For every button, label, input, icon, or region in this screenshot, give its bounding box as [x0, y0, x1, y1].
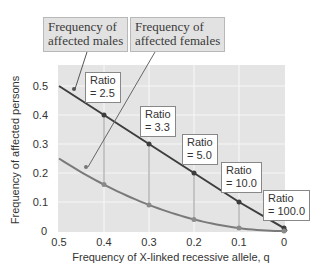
ratio-value: = 5.0 — [187, 149, 213, 162]
ratio-title: Ratio — [226, 164, 257, 177]
ratio-label: Ratio = 100.0 — [263, 190, 310, 221]
svg-text:0.3: 0.3 — [141, 236, 156, 248]
ratio-title: Ratio — [145, 108, 171, 121]
ratio-label: Ratio = 3.3 — [140, 106, 176, 137]
svg-text:0.5: 0.5 — [51, 236, 66, 248]
svg-text:0.5: 0.5 — [33, 80, 48, 92]
ratio-value: = 100.0 — [268, 205, 305, 218]
ratio-label: Ratio = 2.5 — [85, 72, 121, 103]
ratio-label: Ratio = 5.0 — [182, 134, 218, 165]
ratio-title: Ratio — [187, 136, 213, 149]
callout-affected-males: Frequency of affected males — [43, 17, 128, 52]
svg-text:0: 0 — [41, 225, 47, 237]
svg-text:0.4: 0.4 — [33, 109, 48, 121]
svg-text:0.2: 0.2 — [186, 236, 201, 248]
svg-text:0.3: 0.3 — [33, 138, 48, 150]
ratio-value: = 10.0 — [226, 177, 257, 190]
ratio-title: Ratio — [268, 192, 305, 205]
callout-line: Frequency of — [48, 20, 123, 34]
ratio-value: = 3.3 — [145, 121, 171, 134]
ratio-value: = 2.5 — [90, 87, 116, 100]
callout-line: affected females — [135, 34, 220, 48]
y-axis-label: Frequency of affected persons — [9, 75, 21, 224]
svg-text:0.2: 0.2 — [33, 167, 48, 179]
svg-text:0.1: 0.1 — [33, 196, 48, 208]
x-axis-ticks: 0.50.40.30.20.10 — [51, 236, 287, 248]
svg-text:0.4: 0.4 — [96, 236, 111, 248]
callout-affected-females: Frequency of affected females — [130, 17, 225, 52]
svg-text:0.1: 0.1 — [231, 236, 246, 248]
x-axis-label: Frequency of X-linked recessive allele, … — [72, 251, 269, 263]
y-axis-ticks: 00.10.20.30.40.5 — [33, 80, 48, 237]
ratio-title: Ratio — [90, 74, 116, 87]
svg-text:0: 0 — [281, 236, 287, 248]
callout-line: Frequency of — [135, 20, 220, 34]
ratio-label: Ratio = 10.0 — [221, 162, 262, 193]
callout-line: affected males — [48, 34, 123, 48]
